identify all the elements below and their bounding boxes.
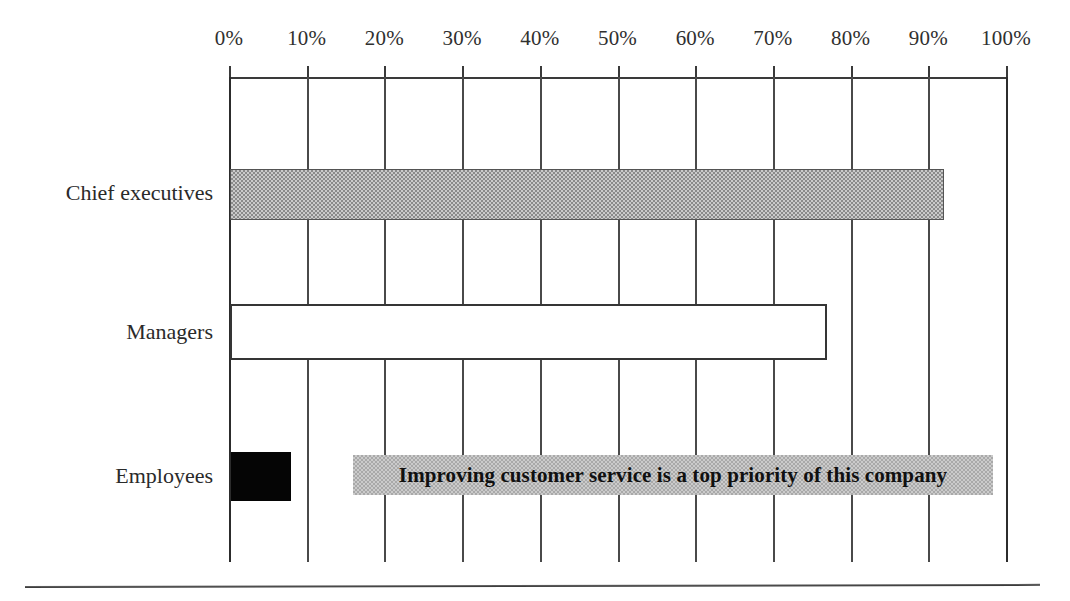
bar-managers: [230, 304, 827, 360]
category-label-managers: Managers: [126, 321, 213, 343]
x-tick-label-70: 70%: [728, 26, 818, 51]
x-tick-label-60: 60%: [650, 26, 740, 51]
x-tick-label-100: 100%: [961, 26, 1051, 51]
x-tick-label-20: 20%: [339, 26, 429, 51]
bar-chief-executives: [230, 169, 944, 220]
annotation-text: Improving customer service is a top prio…: [353, 463, 993, 488]
category-label-employees: Employees: [115, 465, 213, 487]
gridline-100: [1006, 77, 1008, 562]
bar-employees: [231, 452, 291, 501]
x-tick-label-0: 0%: [184, 26, 274, 51]
bottom-divider-rule: [25, 584, 1040, 588]
bar-chart-figure: 0%10%20%30%40%50%60%70%80%90%100% Chief …: [0, 0, 1070, 601]
x-tick-label-80: 80%: [806, 26, 896, 51]
x-tick-label-50: 50%: [573, 26, 663, 51]
x-tick-label-40: 40%: [495, 26, 585, 51]
x-tick-label-10: 10%: [262, 26, 352, 51]
category-label-chief-executives: Chief executives: [66, 182, 213, 204]
x-tick-label-90: 90%: [883, 26, 973, 51]
annotation-band: Improving customer service is a top prio…: [353, 455, 993, 495]
x-tick-label-30: 30%: [417, 26, 507, 51]
